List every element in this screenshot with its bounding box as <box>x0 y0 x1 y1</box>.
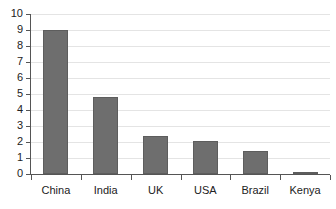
y-tick-mark <box>26 94 30 95</box>
y-tick-label: 3 <box>1 120 23 131</box>
y-tick-mark <box>26 126 30 127</box>
y-tick-label: 2 <box>1 136 23 147</box>
gridline <box>31 30 330 31</box>
y-tick-label: 6 <box>1 72 23 83</box>
x-tick-mark <box>280 175 281 180</box>
gridline <box>31 14 330 15</box>
x-tick-mark <box>131 175 132 180</box>
plot-area <box>31 14 330 174</box>
x-tick-mark <box>230 175 231 180</box>
x-tick-mark <box>181 175 182 180</box>
y-tick-label: 5 <box>1 88 23 99</box>
y-tick-mark <box>26 174 30 175</box>
gridline <box>31 142 330 143</box>
bar <box>243 151 268 174</box>
x-tick-mark <box>31 175 32 180</box>
y-tick-mark <box>26 142 30 143</box>
bar-chart: 012345678910 ChinaIndiaUKUSABrazilKenya <box>0 0 336 209</box>
y-tick-label: 9 <box>1 24 23 35</box>
y-tick-mark <box>26 62 30 63</box>
gridline <box>31 78 330 79</box>
y-tick-mark <box>26 46 30 47</box>
gridline <box>31 158 330 159</box>
x-tick-mark <box>330 175 331 180</box>
y-tick-label: 1 <box>1 152 23 163</box>
y-tick-mark <box>26 78 30 79</box>
gridline <box>31 126 330 127</box>
y-tick-mark <box>26 14 30 15</box>
bar <box>143 136 168 174</box>
bar <box>93 97 118 174</box>
bar <box>43 30 68 174</box>
y-tick-mark <box>26 110 30 111</box>
y-tick-label: 7 <box>1 56 23 67</box>
y-tick-label: 0 <box>1 168 23 179</box>
x-tick-mark <box>81 175 82 180</box>
y-tick-label: 4 <box>1 104 23 115</box>
gridline <box>31 110 330 111</box>
gridline <box>31 46 330 47</box>
y-tick-label: 8 <box>1 40 23 51</box>
y-tick-label: 10 <box>1 8 23 19</box>
bar <box>193 141 218 174</box>
x-tick-label: Kenya <box>265 184 336 197</box>
gridline <box>31 62 330 63</box>
y-tick-mark <box>26 158 30 159</box>
y-axis-line <box>30 14 31 175</box>
gridline <box>31 94 330 95</box>
y-tick-mark <box>26 30 30 31</box>
